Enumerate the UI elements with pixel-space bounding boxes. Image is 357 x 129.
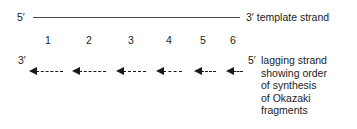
arrow-dashed-tail [163, 71, 182, 72]
okazaki-arrow-4 [156, 66, 182, 78]
fragment-number-4: 4 [162, 34, 176, 47]
caption-line-5: fragments [261, 104, 357, 117]
fragment-number-3: 3 [124, 34, 138, 47]
caption-line-2: showing order [261, 67, 357, 80]
okazaki-arrow-row [0, 66, 260, 80]
arrow-dashed-tail [201, 71, 216, 72]
caption-line-1: lagging strand [261, 54, 357, 67]
caption-line-3: of synthesis [261, 79, 357, 92]
arrow-dashed-tail [36, 71, 63, 72]
lagging-strand-five-prime-label: 5′ [248, 54, 256, 66]
lagging-strand-caption: lagging strand showing order of synthesi… [261, 54, 357, 117]
fragment-number-5: 5 [196, 34, 210, 47]
okazaki-arrow-1 [29, 66, 63, 78]
arrow-dashed-tail [123, 71, 146, 72]
okazaki-arrow-6 [226, 66, 243, 78]
fragment-number-1: 1 [41, 34, 55, 47]
fragment-number-6: 6 [226, 34, 240, 47]
okazaki-arrow-3 [116, 66, 146, 78]
template-strand-five-prime-label: 5′ [17, 11, 25, 23]
template-strand-three-prime-text: 3′ [246, 11, 254, 23]
fragment-number-row: 1 2 3 4 5 6 [0, 34, 260, 48]
lagging-strand-three-prime-label: 3′ [18, 54, 26, 66]
caption-line-4: of Okazaki [261, 92, 357, 105]
okazaki-fragment-diagram: 5′ 3′ template strand 1 2 3 4 5 6 3′ [0, 0, 357, 129]
template-strand-line [33, 17, 240, 18]
arrow-dashed-tail [79, 71, 106, 72]
template-strand-name-label: template strand [257, 11, 329, 23]
okazaki-arrow-2 [72, 66, 106, 78]
fragment-number-2: 2 [82, 34, 96, 47]
arrow-dashed-tail [233, 71, 243, 72]
okazaki-arrow-5 [194, 66, 216, 78]
template-strand-three-prime-label: 3′ template strand [246, 11, 329, 23]
